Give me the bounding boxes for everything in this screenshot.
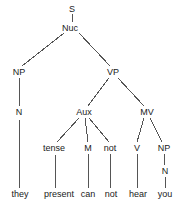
tree-edge [118, 78, 144, 106]
tree-node-s: S [69, 5, 75, 14]
tree-edge [79, 33, 110, 66]
tree-edge [22, 33, 64, 66]
syntax-tree-diagram: SNucNPVPNAuxMVtenseMnotVNPN theypresentc… [0, 0, 176, 208]
tree-terminal-you: you [158, 190, 173, 199]
tree-node-n1: N [16, 108, 23, 117]
tree-node-m: M [84, 144, 92, 153]
tree-edge [57, 118, 79, 142]
tree-node-aux: Aux [76, 108, 92, 117]
tree-terminal-hear: hear [129, 190, 147, 199]
tree-edge [85, 118, 88, 142]
tree-edge [150, 118, 162, 142]
tree-node-np1: NP [13, 68, 26, 77]
tree-edge [164, 154, 165, 165]
tree-node-v: V [134, 144, 140, 153]
tree-edge [137, 118, 144, 142]
tree-node-nuc: Nuc [62, 24, 78, 33]
tree-node-notnode: not [104, 144, 117, 153]
tree-edge [55, 154, 56, 188]
tree-edges-layer [0, 0, 176, 208]
tree-terminal-not: not [105, 190, 118, 199]
tree-terminal-can: can [81, 190, 96, 199]
tree-node-vp: VP [107, 68, 119, 77]
tree-node-np2: NP [158, 144, 171, 153]
tree-node-n2: N [162, 167, 169, 176]
tree-terminal-present: present [44, 190, 74, 199]
tree-edge [88, 78, 109, 106]
tree-node-tense: tense [43, 144, 65, 153]
tree-terminal-they: they [11, 190, 28, 199]
tree-edge [89, 118, 109, 142]
tree-edge [19, 118, 20, 188]
tree-node-mv: MV [140, 108, 154, 117]
edges-group [19, 14, 165, 188]
